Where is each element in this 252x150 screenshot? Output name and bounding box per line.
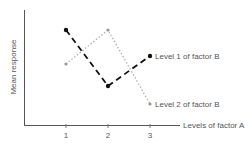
series-level1-point bbox=[148, 54, 152, 58]
series-level2-point bbox=[106, 28, 109, 31]
x-axis-label: Levels of factor A bbox=[183, 121, 245, 130]
series-level1-point bbox=[106, 84, 110, 88]
series-level2-line bbox=[66, 30, 150, 104]
series-level1-label: Level 1 of factor B bbox=[155, 52, 219, 61]
y-axis-label: Mean response bbox=[9, 39, 18, 95]
series-level2-point bbox=[64, 62, 67, 65]
series-level1-line bbox=[66, 30, 150, 86]
series-level1-point bbox=[64, 28, 68, 32]
x-tick-label-1: 1 bbox=[64, 131, 69, 140]
interaction-plot: 1 2 3 Levels of factor A Mean response L… bbox=[0, 0, 252, 150]
x-tick-label-2: 2 bbox=[106, 131, 111, 140]
series-level2-point bbox=[148, 102, 151, 105]
series-level2-label: Level 2 of factor B bbox=[155, 100, 219, 109]
x-tick-label-3: 3 bbox=[148, 131, 153, 140]
